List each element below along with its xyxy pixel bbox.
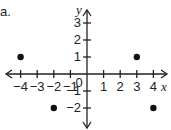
y-tick-label: 3: [74, 15, 81, 30]
y-tick-label: 1: [74, 49, 81, 64]
x-tick-label: −2: [46, 79, 61, 94]
data-point: [51, 105, 57, 111]
y-axis-label: y: [74, 2, 82, 17]
origin-label: 0: [75, 75, 82, 90]
data-point: [17, 54, 23, 60]
y-tick-label: 2: [74, 32, 81, 47]
x-tick-label: 1: [100, 79, 107, 94]
x-tick-label: −4: [13, 79, 28, 94]
x-tick-label: 4: [150, 79, 157, 94]
x-axis-label: x: [160, 79, 167, 94]
x-tick-label: 2: [117, 79, 124, 94]
x-tick-label: −3: [30, 79, 45, 94]
y-tick-label: −2: [66, 100, 81, 115]
data-point: [150, 105, 156, 111]
x-tick-label: 3: [133, 79, 140, 94]
data-point: [134, 54, 140, 60]
coordinate-plane: −4−3−2−11234−2−11230xy: [0, 0, 171, 130]
